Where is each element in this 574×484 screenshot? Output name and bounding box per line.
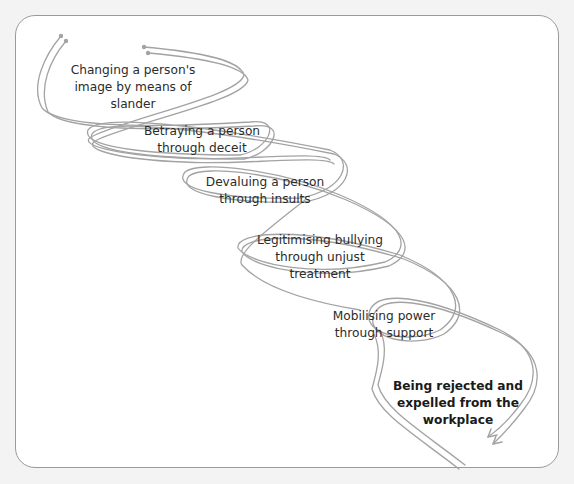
step-6-expelled: Being rejected and expelled from the wor… — [393, 378, 523, 429]
step-4-unjust-treatment: Legitimising bullying through unjust tre… — [257, 232, 383, 283]
step-3-insults: Devaluing a person through insults — [206, 174, 325, 208]
step-2-deceit: Betraying a person through deceit — [144, 123, 260, 157]
step-5-mobilising-power: Mobilising power through support — [333, 308, 436, 342]
step-1-slander: Changing a person's image by means of sl… — [71, 62, 196, 113]
